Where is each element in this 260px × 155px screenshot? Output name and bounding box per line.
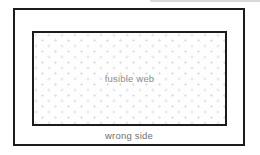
diagram-canvas: fusible web wrong side [0, 0, 260, 155]
fusible-web-label: fusible web [105, 73, 155, 84]
fusible-web-rect: fusible web [32, 31, 227, 126]
wrong-side-label: wrong side [15, 130, 243, 141]
fabric-wrong-side-rect: fusible web wrong side [13, 8, 245, 146]
page-edge-artifact [150, 0, 260, 2]
